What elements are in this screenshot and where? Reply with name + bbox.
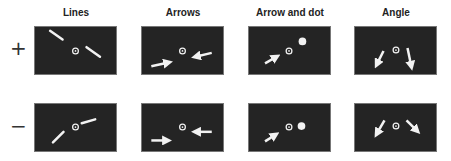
fixation-icon [180, 124, 186, 130]
panel-lines-plus [34, 26, 117, 75]
dot-icon [298, 122, 306, 130]
arrows-plus-stimulus [142, 27, 223, 74]
panel-arrows-minus [141, 103, 224, 152]
lines-plus-stimulus [35, 27, 116, 74]
column-title-angle: Angle [351, 7, 441, 18]
row-label-minus: − [10, 116, 26, 136]
column-title-lines: Lines [31, 7, 121, 18]
panel-arrow-and-dot-minus [248, 103, 331, 152]
dot-icon [299, 38, 307, 46]
column-title-arrow-and-dot: Arrow and dot [245, 7, 335, 18]
panel-angle-minus [354, 103, 437, 152]
arrows-minus-stimulus [142, 104, 223, 151]
fixation-icon [393, 47, 399, 53]
fixation-icon [180, 48, 186, 54]
angle-plus-stimulus [355, 27, 436, 74]
fixation-icon [393, 123, 399, 129]
arrow-and-dot-plus-stimulus [249, 27, 330, 74]
fixation-icon [286, 48, 292, 54]
panel-arrows-plus [141, 26, 224, 75]
row-label-plus: + [10, 38, 26, 58]
fixation-icon [73, 48, 79, 54]
column-title-arrows: Arrows [138, 7, 228, 18]
panel-lines-minus [34, 103, 117, 152]
arrow-and-dot-minus-stimulus [249, 104, 330, 151]
fixation-icon [286, 124, 292, 130]
panel-arrow-and-dot-plus [248, 26, 331, 75]
angle-minus-stimulus [355, 104, 436, 151]
panel-angle-plus [354, 26, 437, 75]
lines-minus-stimulus [35, 104, 116, 151]
fixation-icon [73, 124, 79, 130]
